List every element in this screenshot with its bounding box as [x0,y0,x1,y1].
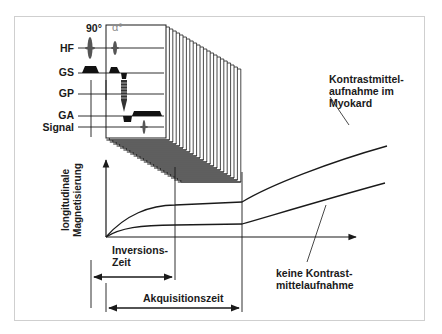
flip-angle-90-label: 90° [86,22,102,34]
y-axis-label: longitudinale Magnetisierung [60,160,83,240]
inversion-time-label-line1: Inversions- [112,244,168,256]
curve-contrast-label-line3: Myokard [329,97,404,109]
y-axis-label-line1: longitudinale [60,160,72,240]
curve-contrast-label-line1: Kontrastmittel- [329,73,404,85]
row-label-gp: GP [14,87,74,99]
inversion-time-label: Inversions- Zeit [112,244,168,268]
curve-no-contrast [106,183,385,237]
curve-no-contrast-label-line2: mittelaufnahme [276,279,354,291]
row-label-signal: Signal [14,121,74,133]
flip-angle-alpha-label: α° [112,21,123,33]
row-label-gs: GS [14,66,74,78]
y-axis-label-line2: Magnetisierung [72,160,84,240]
curve-contrast-label-line2: aufnahme im [329,85,404,97]
time-markers [91,167,242,312]
curve-contrast-label: Kontrastmittel- aufnahme im Myokard [329,73,404,109]
row-label-ga: GA [14,109,74,121]
curve-no-contrast-label: keine Kontrast- mittelaufnahme [276,267,354,291]
curve-no-contrast-label-line1: keine Kontrast- [276,267,354,279]
acquisition-time-label: Akquisitionszeit [143,292,224,304]
row-label-hf: HF [14,42,74,54]
inversion-time-label-line2: Zeit [112,256,168,268]
